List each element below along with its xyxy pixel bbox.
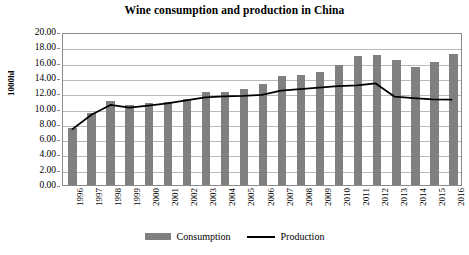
x-axis-tick-label: 2014 <box>418 188 428 206</box>
y-axis-tick-mark <box>57 64 60 65</box>
y-axis-tick-label: 4.00 <box>39 151 56 161</box>
x-axis-tick-label: 2002 <box>189 188 199 206</box>
x-axis-tick-label: 2008 <box>304 188 314 206</box>
x-axis-tick-label: 2012 <box>380 188 390 206</box>
y-axis-tick-mark <box>57 155 60 156</box>
x-axis-tick-label: 1999 <box>132 188 142 206</box>
y-axis-tick-mark <box>57 94 60 95</box>
bar-swatch-icon <box>145 233 171 240</box>
y-axis-tick-label: 18.00 <box>35 44 56 54</box>
y-axis-tick-label: 8.00 <box>39 120 56 130</box>
x-axis-tick-label: 2016 <box>456 188 466 206</box>
y-axis-tick-mark <box>57 125 60 126</box>
legend-item[interactable]: Production <box>247 231 325 242</box>
chart-legend: ConsumptionProduction <box>0 231 469 242</box>
legend-label: Production <box>281 231 325 242</box>
x-axis-tick-label: 2011 <box>361 188 371 206</box>
line-swatch-icon <box>247 236 275 238</box>
y-axis-tick-label: 14.00 <box>35 74 56 84</box>
production-line <box>72 83 451 129</box>
x-axis-tick-label: 2000 <box>151 188 161 206</box>
y-axis-tick-labels: 0.002.004.006.008.0010.0012.0014.0016.00… <box>0 33 60 186</box>
x-axis-tick-label: 1998 <box>113 188 123 206</box>
y-axis-tick-label: 10.00 <box>35 105 56 115</box>
y-axis-tick-label: 2.00 <box>39 166 56 176</box>
y-axis-tick-label: 0.00 <box>39 181 56 191</box>
x-axis-tick-label: 1997 <box>94 188 104 206</box>
y-axis-tick-mark <box>57 33 60 34</box>
x-axis-tick-label: 2004 <box>227 188 237 206</box>
y-axis-tick-mark <box>57 140 60 141</box>
chart-title: Wine consumption and production in China <box>0 4 469 16</box>
x-axis-tick-label: 2005 <box>246 188 256 206</box>
x-axis-tick-label: 2007 <box>285 188 295 206</box>
y-axis-tick-mark <box>57 110 60 111</box>
y-axis-tick-mark <box>57 186 60 187</box>
x-axis-tick-label: 2003 <box>208 188 218 206</box>
legend-label: Consumption <box>177 231 231 242</box>
x-axis-tick-label: 2015 <box>437 188 447 206</box>
x-axis-tick-label: 2010 <box>342 188 352 206</box>
y-axis-tick-mark <box>57 79 60 80</box>
x-axis-tick-labels: 1996199719981999200020012002200320042005… <box>62 188 462 224</box>
y-axis-tick-label: 16.00 <box>35 59 56 69</box>
chart-container: Wine consumption and production in China… <box>0 0 469 255</box>
x-axis-tick-label: 2001 <box>170 188 180 206</box>
plot-area <box>62 33 462 186</box>
y-axis-tick-mark <box>57 48 60 49</box>
x-axis-tick-label: 2006 <box>266 188 276 206</box>
x-axis-tick-label: 1996 <box>75 188 85 206</box>
x-axis-tick-label: 2009 <box>323 188 333 206</box>
legend-item[interactable]: Consumption <box>145 231 231 242</box>
y-axis-tick-label: 6.00 <box>39 135 56 145</box>
y-axis-tick-label: 20.00 <box>35 28 56 38</box>
x-axis-tick-label: 2013 <box>399 188 409 206</box>
line-series-production <box>63 34 461 185</box>
y-axis-tick-mark <box>57 171 60 172</box>
y-axis-tick-label: 12.00 <box>35 89 56 99</box>
